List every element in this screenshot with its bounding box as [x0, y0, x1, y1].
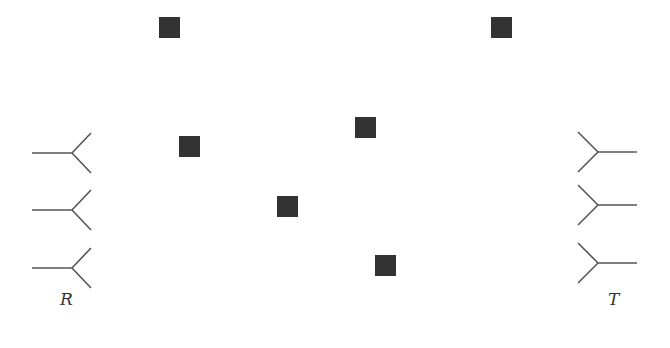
transmitter-antenna-icon: [578, 243, 637, 283]
transmitter-label: T: [608, 289, 619, 309]
receiver-label: R: [60, 289, 73, 309]
scatterer-square: [277, 196, 298, 217]
transmitter-antenna-icon: [578, 185, 637, 225]
receiver-antenna-array: [32, 133, 91, 288]
receiver-antenna-icon: [32, 133, 91, 173]
transmitter-antenna-icon: [578, 132, 637, 172]
receiver-antenna-icon: [32, 190, 91, 230]
scatterer-square: [179, 136, 200, 157]
transmitter-antenna-array: [578, 132, 637, 283]
scatterer-square: [375, 255, 396, 276]
scatterer-square: [159, 17, 180, 38]
scatterer-square: [355, 117, 376, 138]
scatterer-square: [491, 17, 512, 38]
receiver-antenna-icon: [32, 248, 91, 288]
scatterers: [159, 17, 512, 276]
mimo-channel-diagram: [0, 0, 670, 348]
